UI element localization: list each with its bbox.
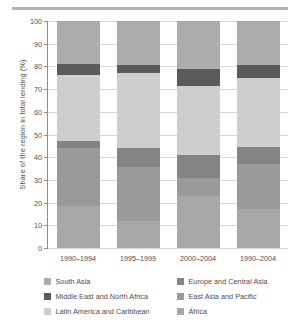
y-tick-0 [44,248,47,249]
bar-segment [57,141,100,148]
bar-segment [117,21,160,65]
y-tick-20 [44,203,47,204]
y-tick-100 [44,21,47,22]
y-tick-60 [44,112,47,113]
legend-column-right: Europe and Central AsiaEast Asia and Pac… [177,274,292,319]
bar-segment [117,221,160,248]
x-tick-label: 1990–2004 [228,254,288,263]
y-tick-label-70: 70 [34,85,42,94]
bar-segment [237,209,280,248]
bar-segment [117,167,160,220]
legend-item-label: África [189,308,208,315]
y-tick-90 [44,44,47,45]
y-tick-label-100: 100 [30,17,42,26]
y-tick-label-40: 40 [34,153,42,162]
legend-item[interactable]: África [177,304,292,319]
x-tick-label: 1995–1999 [108,254,168,263]
y-tick-label-60: 60 [34,107,42,116]
legend-swatch-icon [44,293,51,300]
bar-segment [57,21,100,64]
y-tick-label-80: 80 [34,62,42,71]
bar-segment [117,73,160,148]
legend-swatch-icon [177,278,184,285]
bar-segment [237,164,280,209]
y-axis-title: Share of the region in total lending (%) [18,25,27,225]
y-tick-80 [44,66,47,67]
legend-item-label: Europe and Central Asia [189,278,268,285]
legend-item[interactable]: Europe and Central Asia [177,274,292,289]
bar-segment [237,147,280,164]
y-tick-70 [44,89,47,90]
stacked-bars [48,21,288,248]
legend-swatch-icon [44,278,51,285]
bar-segment [117,65,160,73]
y-tick-label-0: 0 [38,244,42,253]
legend-item-label: South Asia [56,278,91,285]
bar-segment [237,78,280,147]
bar-segment [117,148,160,167]
y-tick-40 [44,157,47,158]
y-tick-label-30: 30 [34,175,42,184]
y-tick-label-90: 90 [34,39,42,48]
bar-segment [177,196,220,248]
chart-figure: Share of the region in total lending (%)… [0,0,299,332]
plot-area: 0102030405060708090100 1990–19941995–199… [47,21,288,248]
bar-segment [177,69,220,86]
legend-item[interactable]: Latin America and Caribbean [44,304,169,319]
bar-segment [177,178,220,196]
gridline-0 [48,248,288,249]
legend-swatch-icon [177,308,184,315]
legend-swatch-icon [44,308,51,315]
bar-segment [237,21,280,65]
bar-group [57,21,100,248]
legend-item[interactable]: East Asia and Pacific [177,289,292,304]
bar-segment [177,21,220,69]
y-tick-label-20: 20 [34,198,42,207]
bar-segment [57,75,100,141]
y-tick-10 [44,225,47,226]
bar-segment [57,206,100,248]
legend-item[interactable]: South Asia [44,274,169,289]
y-tick-50 [44,135,47,136]
y-tick-30 [44,180,47,181]
bar-segment [237,65,280,77]
bar-segment [177,86,220,155]
bar-segment [177,155,220,178]
legend-item[interactable]: Middle East and North Africa [44,289,169,304]
y-tick-label-10: 10 [34,221,42,230]
x-tick-label: 1990–1994 [48,254,108,263]
legend-item-label: Latin America and Caribbean [56,308,150,315]
bar-segment [57,64,100,75]
y-tick-label-50: 50 [34,130,42,139]
bar-group [117,21,160,248]
legend-swatch-icon [177,293,184,300]
bar-group [177,21,220,248]
top-divider-rule [12,7,288,10]
x-tick-label: 2000–2004 [168,254,228,263]
legend-item-label: East Asia and Pacific [189,293,257,300]
bar-segment [57,148,100,206]
bar-group [237,21,280,248]
legend-item-label: Middle East and North Africa [56,293,148,300]
legend-column-left: South AsiaMiddle East and North AfricaLa… [44,274,169,319]
